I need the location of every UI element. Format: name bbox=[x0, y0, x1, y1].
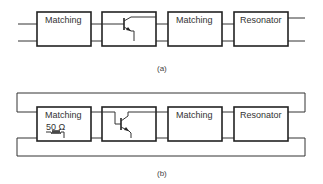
caption-b: (b) bbox=[157, 169, 167, 178]
diagram-a: Matching Matching Resonator (a) bbox=[18, 12, 305, 73]
resonator-label: Resonator bbox=[240, 15, 282, 25]
matching-label-b1: Matching bbox=[45, 110, 82, 120]
diagram-b: Matching 50 Ω Matching Resonator (b) bbox=[17, 93, 305, 178]
block-diagram: Matching Matching Resonator (a) Matching bbox=[0, 0, 323, 184]
matching-label-1: Matching bbox=[45, 15, 82, 25]
matching-label-b2: Matching bbox=[176, 110, 213, 120]
matching-label-2: Matching bbox=[176, 15, 213, 25]
impedance-label: 50 Ω bbox=[46, 122, 66, 132]
resonator-label-b: Resonator bbox=[240, 110, 282, 120]
caption-a: (a) bbox=[157, 64, 167, 73]
